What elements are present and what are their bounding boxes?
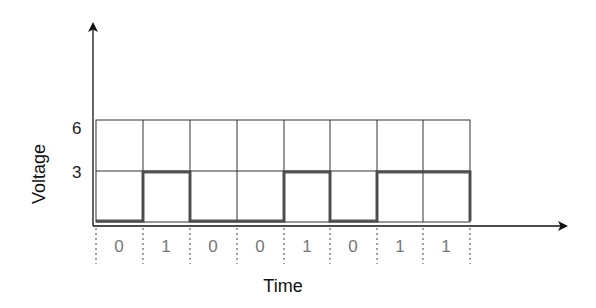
y-axis-label: Voltage — [29, 144, 49, 204]
signal-waveform — [96, 172, 470, 221]
bit-label: 1 — [161, 237, 170, 256]
bit-label: 0 — [208, 237, 217, 256]
signal-diagram: 6 3 0 1 0 0 1 0 1 1 Time Voltage — [0, 0, 596, 308]
bit-label: 0 — [114, 237, 123, 256]
y-tick-3: 3 — [72, 163, 81, 182]
bit-label: 1 — [441, 237, 450, 256]
bit-label: 1 — [395, 237, 404, 256]
bit-label: 1 — [302, 237, 311, 256]
bit-dividers — [96, 228, 470, 264]
x-axis-label: Time — [263, 276, 302, 296]
bit-label: 0 — [255, 237, 264, 256]
y-tick-6: 6 — [72, 119, 81, 138]
bit-label: 0 — [348, 237, 357, 256]
